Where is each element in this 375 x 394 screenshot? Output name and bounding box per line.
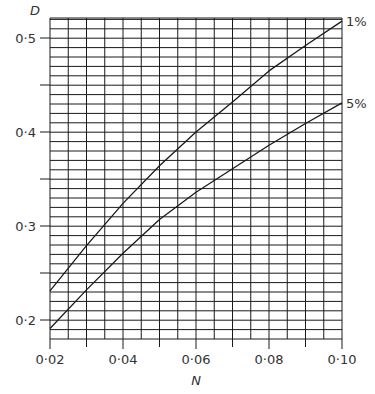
- x-axis-title: N: [191, 373, 201, 388]
- x-tick-label: 0·06: [182, 352, 211, 367]
- x-tick-label: 0·10: [328, 352, 357, 367]
- y-tick-label: 0·4: [15, 125, 36, 140]
- grid: [50, 18, 342, 339]
- y-tick-label: 0·5: [15, 31, 36, 46]
- y-axis-title: D: [30, 3, 40, 18]
- x-tick-label: 0·08: [255, 352, 284, 367]
- y-tick-label: 0·3: [15, 219, 36, 234]
- axis-labels: 1%5%DN: [30, 3, 367, 388]
- chart-canvas: 0·20·30·40·50·020·040·060·080·10 1%5%DN: [0, 0, 375, 394]
- x-tick-label: 0·04: [109, 352, 138, 367]
- series-label: 5%: [346, 96, 367, 111]
- x-tick-label: 0·02: [36, 352, 65, 367]
- y-tick-label: 0·2: [15, 313, 36, 328]
- series-label: 1%: [346, 14, 367, 29]
